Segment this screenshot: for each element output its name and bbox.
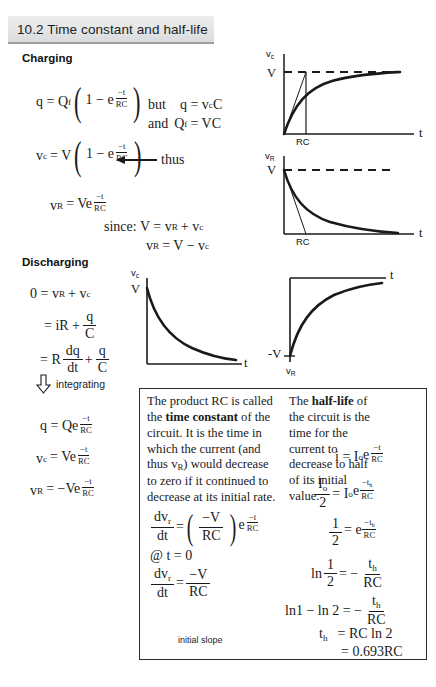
equation-initial-slope: dvr dt = ( −V RC ) e −t RC (149, 510, 278, 543)
time-constant-paragraph: The product RC is called the time consta… (147, 394, 278, 505)
equation-discharge-kvl: 0 = vR + vc (30, 286, 91, 302)
equation-current-decay: i = Io e −t RC (335, 447, 385, 467)
eq-charge-q-lhs: q = Q (36, 94, 68, 110)
fraction-th-over-rc: th RC (360, 557, 385, 590)
note-qf-lhs: Q (174, 116, 184, 132)
exponent-minus-t-over-rc: −t RC (245, 513, 261, 533)
fraction-q-over-c: q C (82, 310, 97, 342)
fraction-io-over-2: Io 2 (315, 477, 330, 510)
thus-label: thus (161, 152, 184, 168)
slide-title-bar: 10.2 Time constant and half-life (8, 16, 214, 44)
graph1-tau-label: RC (296, 136, 310, 147)
fraction-th-over-rc: th RC (364, 594, 389, 627)
fraction-q-over-c: q C (95, 344, 110, 376)
equation-ln-difference: ln1 − ln 2 = − th RC (285, 594, 391, 627)
one-minus-e: 1 − e (86, 146, 114, 162)
graph2-tau-label: RC (296, 236, 310, 247)
paren-minus-v-over-rc: ( −V RC ) (184, 511, 238, 543)
fraction-dq-dt: dq dt (63, 344, 83, 376)
note-and-label: and (148, 116, 168, 132)
fraction-dvr-dt: dvr dt (151, 567, 174, 600)
graph-discharging-capacitor: vc V t (128, 268, 258, 376)
graph3-v-level-label: V (131, 282, 140, 297)
eq-vc-equals-v: = V (50, 148, 71, 164)
equation-half-life-numeric: = 0.693RC (341, 644, 403, 660)
note-qf-sub: f (184, 119, 187, 129)
graph1-x-axis-label: t (419, 126, 422, 141)
equation-half-current: Io 2 = Io e −th RC (313, 477, 375, 510)
exponent-minus-t-over-rc: −t RC (78, 414, 94, 434)
eq-vc-lhs: v (36, 148, 43, 164)
half-life-column: The half-life of the circuit is the time… (283, 389, 426, 659)
fraction-1-over-2: 1 2 (324, 558, 337, 590)
eq-charge-q-inner: 1 − e −t RC (85, 92, 131, 112)
at-t-equals-zero: @ t = 0 (150, 548, 278, 564)
fraction-minus-v-over-rc: −V RC (186, 568, 211, 600)
slide-page: 10.2 Time constant and half-life Chargin… (0, 0, 436, 687)
thus-arrow: thus (117, 152, 184, 168)
note-q-tail: C (213, 97, 222, 113)
arrow-down-icon (36, 374, 51, 394)
graph4-y-axis-label: vR (286, 365, 296, 377)
fraction-dvr-dt: dvr dt (151, 510, 174, 543)
note-but-q: but q = vcC (148, 97, 222, 113)
half-life-bold: half-life (312, 394, 354, 408)
graph-charging-resistor: vR V t RC (262, 150, 434, 250)
page-title: 10.2 Time constant and half-life (8, 22, 208, 37)
initial-slope-caption: initial slope (178, 635, 223, 645)
graph2-y-axis-label: vR (265, 150, 275, 162)
section-heading-charging: Charging (22, 52, 72, 64)
equation-discharge-diff: = R dq dt + q C (40, 344, 112, 376)
graph1-v-level-label: V (267, 66, 276, 81)
equation-slope-at-zero: dvr dt = −V RC (149, 567, 278, 600)
equation-half-life-result: th = RC ln 2 (319, 626, 392, 643)
integrating-step: integrating (36, 374, 105, 394)
note-qf-tail: = VC (190, 116, 221, 132)
graph1-y-axis-label: vc (266, 48, 274, 60)
arrow-left-icon (117, 159, 157, 161)
graph2-plot (262, 150, 434, 250)
since-line-1: since: V = vR + vc (104, 219, 203, 235)
exponent-minus-t-over-rc: −t RC (76, 445, 92, 465)
integrating-label: integrating (56, 378, 105, 390)
graph1-plot (262, 50, 434, 148)
graph4-x-axis-label: t (390, 268, 393, 283)
graph2-x-axis-label: t (419, 226, 422, 241)
exponent-minus-t-over-rc: −t RC (114, 88, 130, 108)
equation-discharge-q: q = Qe −t RC (40, 418, 94, 438)
eq-charge-q-paren: ( 1 − e −t RC ) (71, 92, 144, 112)
eq-vc-sub: c (43, 151, 47, 161)
graph-charging-capacitor: vc V t RC (262, 50, 434, 148)
graph4-plot (268, 268, 434, 380)
note-but-label: but (148, 97, 166, 113)
equation-discharge-vr: vR = −Ve −t RC (30, 481, 96, 501)
graph2-v-level-label: V (267, 163, 276, 178)
exponent-minus-t-over-rc: −t RC (369, 443, 385, 463)
equation-vr-charging: vR = Ve −t RC (50, 196, 108, 216)
since-prefix: since: V = v (104, 219, 172, 235)
graph3-y-axis-label: vc (131, 267, 139, 279)
equation-discharge-ir: = iR + q C (44, 310, 99, 342)
eq-vr-rhs: = Ve −t RC (66, 196, 108, 216)
graph4-v-level-label: -V (268, 347, 281, 362)
explanation-box: The product RC is called the time consta… (139, 388, 427, 660)
exponent-minus-th-over-rc: −th RC (362, 518, 378, 540)
equation-discharge-vc: vc = Ve −t RC (36, 449, 92, 469)
exponent-minus-t-over-rc: −t RC (92, 192, 108, 212)
note-and-qf: and Qf = VC (148, 116, 221, 132)
exponent-minus-th-over-rc: −th RC (359, 478, 375, 500)
section-heading-discharging: Discharging (22, 256, 88, 268)
since-line-2: vR = V − vc (146, 238, 209, 254)
eq-vr-sub: R (57, 201, 63, 211)
note-q-lhs: q = v (180, 97, 209, 113)
thus-annotation: thus (117, 152, 184, 168)
one-minus-e: 1 − e (86, 92, 114, 108)
graph-discharging-resistor: t -V vR (268, 268, 434, 380)
eq-vr-lhs: v (50, 198, 57, 214)
time-constant-bold: time constant (166, 410, 238, 424)
fraction-1-over-2: 1 2 (329, 517, 342, 549)
equation-charge-q: q = Qf ( 1 − e −t RC ) (36, 92, 144, 112)
exponent-minus-t-over-rc: −t RC (80, 477, 96, 497)
graph3-plot (128, 268, 258, 376)
equation-ln-half: ln 1 2 = − th RC (311, 557, 387, 590)
